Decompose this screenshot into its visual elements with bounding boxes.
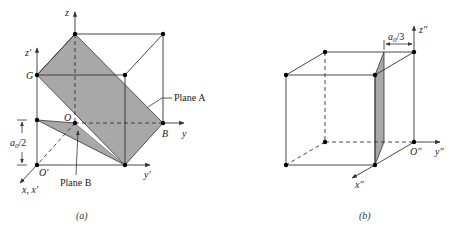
plane-shape-b [375, 52, 384, 165]
x-axis [20, 165, 37, 183]
panel-a: a0/2 z z′ G O B y y′ O′ x, x′ Plane A [10, 7, 206, 222]
label-plane-b: Plane B [60, 177, 92, 188]
a0-third-label: a0/3 [388, 31, 404, 44]
label-O-dprime: O″ [410, 146, 422, 157]
a0-half-label: a0/2 [10, 137, 26, 150]
label-y: y [181, 128, 187, 139]
caption-a: (a) [76, 210, 88, 222]
x-dprime-axis [352, 165, 375, 178]
label-plane-a: Plane A [174, 92, 206, 103]
label-x-dprime: x″ [354, 179, 364, 190]
label-y-dprime: y″ [434, 146, 444, 157]
label-y-prime: y′ [143, 169, 151, 180]
axes-b [352, 26, 440, 178]
label-B: B [162, 128, 168, 139]
cube-b-hidden-edges [286, 52, 414, 165]
caption-b: (b) [359, 210, 371, 222]
cube-b-edges [286, 52, 414, 165]
label-O-prime: O′ [39, 167, 49, 178]
label-O: O [64, 112, 71, 123]
lattice-points-b [284, 50, 416, 167]
crystal-planes-figure: a0/2 z z′ G O B y y′ O′ x, x′ Plane A [0, 0, 456, 233]
label-z-dprime: z″ [418, 24, 428, 35]
label-z-prime: z′ [24, 47, 32, 58]
label-z: z [64, 7, 69, 18]
label-G: G [26, 70, 33, 81]
panel-b: a0/3 z″ y″ O″ x″ (b) [284, 24, 445, 222]
label-x-xprime: x, x′ [21, 184, 39, 195]
